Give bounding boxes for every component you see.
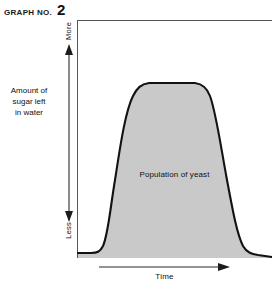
y-axis-title-line-2: sugar left	[2, 96, 56, 107]
x-axis-title: Time	[99, 272, 230, 281]
y-axis-min-label: Less	[64, 222, 73, 239]
yeast-population-curve	[77, 20, 272, 258]
y-axis-title-line-3: in water	[2, 107, 56, 118]
x-axis-arrow-icon	[99, 262, 230, 272]
plot-area: Population of yeast	[77, 20, 272, 258]
page-title-number: 2	[57, 2, 65, 17]
page-title-label: GRAPH NO.	[4, 8, 52, 17]
y-axis-title-line-1: Amount of	[2, 85, 56, 96]
y-axis-arrow-icon	[62, 44, 76, 222]
y-axis-max-label: More	[64, 22, 73, 40]
graph-title: GRAPH NO. 2	[4, 2, 65, 17]
graph-figure: GRAPH NO. 2 Amount of sugar left in wate…	[0, 0, 280, 293]
series-annotation-label: Population of yeast	[77, 170, 272, 179]
y-axis-title: Amount of sugar left in water	[2, 85, 56, 118]
